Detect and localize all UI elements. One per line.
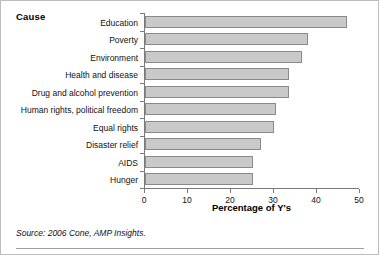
bar-environment bbox=[145, 51, 302, 63]
value-tick bbox=[359, 189, 360, 193]
bar-rect bbox=[145, 33, 308, 45]
value-tick bbox=[230, 189, 231, 193]
value-tick bbox=[144, 189, 145, 193]
bar-disaster-relief bbox=[145, 138, 261, 150]
value-tick bbox=[316, 189, 317, 193]
category-tick bbox=[140, 31, 144, 32]
category-label: Environment bbox=[0, 52, 138, 64]
bar-rect bbox=[145, 68, 289, 80]
bar-health-and-disease bbox=[145, 68, 289, 80]
bar-rect bbox=[145, 51, 302, 63]
category-tick bbox=[140, 118, 144, 119]
bar-rect bbox=[145, 16, 347, 28]
source-note: Source: 2006 Cone, AMP Insights. bbox=[16, 228, 146, 238]
bar-education bbox=[145, 16, 347, 28]
value-axis-title: Percentage of Y's bbox=[144, 202, 359, 213]
value-tick bbox=[273, 189, 274, 193]
bar-rect bbox=[145, 173, 253, 185]
bar-rect bbox=[145, 103, 276, 115]
category-label: AIDS bbox=[0, 157, 138, 169]
bar-equal-rights bbox=[145, 121, 274, 133]
category-label: Education bbox=[0, 17, 138, 29]
category-tick bbox=[140, 153, 144, 154]
chart-figure: Cause EducationPovertyEnvironmentHealth … bbox=[0, 0, 380, 256]
bar-poverty bbox=[145, 33, 308, 45]
bar-rect bbox=[145, 121, 274, 133]
category-label: Equal rights bbox=[0, 122, 138, 134]
bar-hunger bbox=[145, 173, 253, 185]
bar-rect bbox=[145, 138, 261, 150]
category-label: Poverty bbox=[0, 34, 138, 46]
category-tick bbox=[140, 101, 144, 102]
value-tick bbox=[187, 189, 188, 193]
category-label: Health and disease bbox=[0, 69, 138, 81]
category-tick bbox=[140, 13, 144, 14]
bar-rect bbox=[145, 156, 253, 168]
bar-aids bbox=[145, 156, 253, 168]
category-tick bbox=[140, 83, 144, 84]
category-tick bbox=[140, 136, 144, 137]
category-label: Hunger bbox=[0, 174, 138, 186]
plot-area: 01020304050 bbox=[144, 13, 359, 188]
category-label-list: EducationPovertyEnvironmentHealth and di… bbox=[0, 13, 138, 188]
category-label: Human rights, political freedom bbox=[0, 104, 138, 116]
bar-rect bbox=[145, 86, 289, 98]
category-tick bbox=[140, 48, 144, 49]
category-tick bbox=[140, 66, 144, 67]
category-label: Drug and alcohol prevention bbox=[0, 87, 138, 99]
category-label: Disaster relief bbox=[0, 139, 138, 151]
category-tick bbox=[140, 171, 144, 172]
bottom-divider bbox=[16, 248, 364, 249]
bar-human-rights-political-freedom bbox=[145, 103, 276, 115]
bar-drug-and-alcohol-prevention bbox=[145, 86, 289, 98]
value-axis-line bbox=[144, 188, 359, 189]
